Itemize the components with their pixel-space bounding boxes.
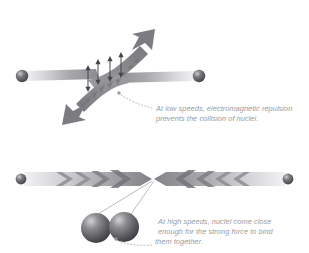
nucleus-left-top [16, 70, 28, 82]
caption-high-speed-line-3: them together. [155, 237, 203, 246]
repulsion-arrow-3 [107, 56, 112, 82]
low-speed-panel: At low speeds, electromagnetic repulsion… [16, 29, 293, 125]
deflected-beam-up-arrowhead [132, 29, 155, 50]
callout-dot-bottom [114, 237, 117, 240]
bound-nucleus-right [109, 212, 139, 242]
high-speed-panel: At high speeds, nuclei come close enough… [16, 170, 294, 246]
deflected-beam-down-arrowhead [62, 104, 86, 125]
bound-nucleus-left [81, 213, 111, 243]
diagram-canvas: At low speeds, electromagnetic repulsion… [0, 0, 309, 253]
callout-leader-top [121, 95, 152, 108]
nucleus-left-bottom [16, 174, 27, 185]
callout-dot-top [117, 91, 120, 94]
converging-beam-left [24, 170, 152, 188]
nucleus-right-top [193, 70, 205, 82]
caption-low-speed-line-1: At low speeds, electromagnetic repulsion [155, 104, 292, 113]
bound-leader-left [95, 181, 152, 216]
caption-high-speed-line-1: At high speeds, nuclei come close [157, 217, 271, 226]
fusion-diagram: At low speeds, electromagnetic repulsion… [0, 0, 309, 253]
caption-high-speed-line-2: enough for the strong force to bind [158, 227, 274, 236]
converging-beam-right [154, 170, 285, 188]
nucleus-right-bottom [283, 174, 294, 185]
caption-low-speed-line-2: prevents the collision of nuclei. [155, 114, 258, 123]
